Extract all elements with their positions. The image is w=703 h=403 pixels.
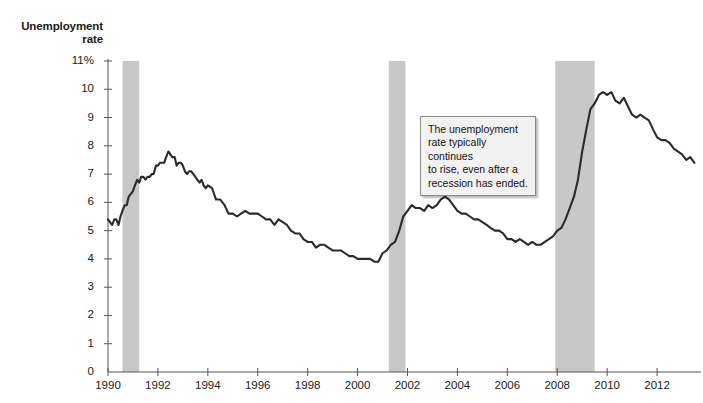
- callout-line: rate typically continues: [428, 136, 528, 163]
- x-tick-label: 1992: [136, 379, 180, 391]
- y-tick-label: 4: [60, 253, 94, 264]
- recession-band: [555, 61, 594, 372]
- y-tick-label: 11%: [60, 55, 94, 66]
- plot-area: [0, 0, 703, 403]
- callout-line: to rise, even after a: [428, 163, 528, 176]
- y-tick-label: 1: [60, 338, 94, 349]
- y-tick-label: 2: [60, 309, 94, 320]
- y-axis-title: Unemployment rate: [8, 20, 103, 46]
- x-tick-label: 2002: [385, 379, 429, 391]
- x-tick-label: 1998: [286, 379, 330, 391]
- y-tick-label: 9: [60, 112, 94, 123]
- y-tick-label: 3: [60, 281, 94, 292]
- x-tick-label: 2000: [336, 379, 380, 391]
- y-tick-label: 0: [60, 366, 94, 377]
- y-tick-label: 7: [60, 168, 94, 179]
- recession-lag-callout: The unemploymentrate typically continues…: [420, 116, 536, 196]
- y-axis-title-line2: rate: [82, 33, 103, 45]
- x-tick-label: 2010: [585, 379, 629, 391]
- x-tick-label: 2004: [435, 379, 479, 391]
- y-tick-label: 8: [60, 140, 94, 151]
- y-axis-title-line1: Unemployment: [21, 20, 103, 32]
- x-tick-label: 1990: [86, 379, 130, 391]
- y-tick-label: 10: [60, 83, 94, 94]
- unemployment-rate-chart: Unemployment rate 01234567891011% 199019…: [0, 0, 703, 403]
- recession-bands: [122, 61, 594, 372]
- x-tick-label: 1994: [186, 379, 230, 391]
- recession-band: [122, 61, 139, 372]
- x-tick-label: 2008: [535, 379, 579, 391]
- x-tick-label: 2006: [485, 379, 529, 391]
- x-tick-label: 1996: [236, 379, 280, 391]
- y-tick-label: 5: [60, 225, 94, 236]
- callout-line: The unemployment: [428, 123, 528, 136]
- x-tick-label: 2012: [635, 379, 679, 391]
- callout-line: recession has ended.: [428, 177, 528, 190]
- y-tick-label: 6: [60, 196, 94, 207]
